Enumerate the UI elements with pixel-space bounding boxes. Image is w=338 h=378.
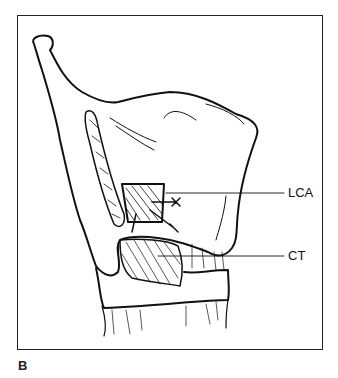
panel-label: B [18, 358, 27, 373]
lca-label: LCA [288, 185, 313, 200]
ct-label: CT [288, 248, 305, 263]
cricothyroid-muscle [120, 239, 182, 286]
